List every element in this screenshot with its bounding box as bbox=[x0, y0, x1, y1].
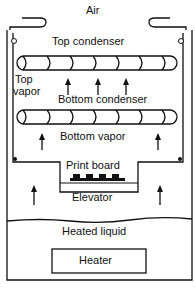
right-air-hook bbox=[149, 18, 186, 30]
bottom-condenser-tube bbox=[17, 110, 177, 124]
top-vapor-label-2: vapor bbox=[13, 86, 41, 97]
liquid-surface bbox=[7, 218, 192, 223]
bottom-vapor-label: Bottom vapor bbox=[60, 131, 125, 142]
print-board-label: Print board bbox=[66, 160, 120, 171]
top-condenser-label: Top condenser bbox=[52, 36, 124, 47]
elevator-label: Elevator bbox=[72, 192, 112, 203]
left-air-hook bbox=[10, 18, 46, 30]
bottom-condenser-label: Bottom condenser bbox=[58, 94, 147, 105]
heater-label: Heater bbox=[79, 255, 112, 266]
top-condenser-tube bbox=[17, 56, 177, 70]
air-label: Air bbox=[86, 5, 99, 16]
top-vapor-label: Top bbox=[15, 74, 33, 85]
heated-liquid-label: Heated liquid bbox=[62, 226, 126, 237]
